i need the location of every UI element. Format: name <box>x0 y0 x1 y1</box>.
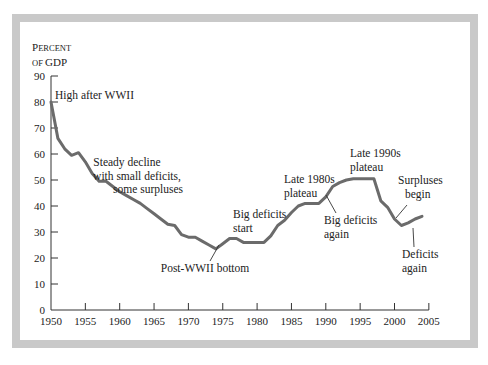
annotation-late-1980s-plateau: Late 1980s <box>284 173 335 185</box>
y-axis-label-line1: PERCENT <box>32 41 72 53</box>
x-tick-label: 1950 <box>40 315 63 327</box>
y-tick-label: 70 <box>34 122 46 134</box>
annotation-late-1990s-plateau: Late 1990s <box>350 147 401 159</box>
y-tick-label: 60 <box>34 148 46 160</box>
annotation-high-after-wwii: High after WWII <box>55 89 134 102</box>
x-tick-label: 2005 <box>418 315 441 327</box>
annotations: High after WWIISteady declinewith small … <box>55 89 443 275</box>
x-tick-label: 1955 <box>74 315 97 327</box>
x-tick-label: 2000 <box>384 315 407 327</box>
annotation-late-1990s-plateau: plateau <box>350 161 383 174</box>
annotation-late-1980s-plateau: plateau <box>284 187 317 200</box>
annotation-steady-decline: Steady decline <box>93 156 160 169</box>
annotation-big-deficits-start: start <box>233 222 254 234</box>
y-tick-label: 10 <box>34 278 46 290</box>
annotation-steady-decline: with small deficits, <box>93 170 181 183</box>
annotation-deficits-again: Deficits <box>402 248 439 260</box>
annotation-big-deficits-again: again <box>324 228 349 241</box>
x-tick-label: 1975 <box>212 315 235 327</box>
annotation-post-wwii-bottom: Post-WWII bottom <box>161 262 250 274</box>
y-tick-label: 90 <box>34 70 46 82</box>
y-tick-label: 80 <box>34 96 46 108</box>
x-tick-label: 1970 <box>177 315 200 327</box>
y-axis-label-line2: OF GDP <box>32 56 67 68</box>
y-tick-label: 30 <box>34 226 46 238</box>
annotation-steady-decline: some surpluses <box>113 183 183 196</box>
annotation-big-deficits-again: Big deficits <box>324 214 378 227</box>
annotation-big-deficits-start: Big deficits <box>233 208 287 221</box>
annotation-deficits-again: again <box>402 262 427 275</box>
annotation-surpluses-begin: begin <box>405 188 431 201</box>
x-tick-label: 1995 <box>349 315 372 327</box>
x-axis: 1950195519601965197019751980198519901995… <box>40 303 440 327</box>
y-tick-label: 40 <box>34 200 46 212</box>
x-tick-label: 1985 <box>280 315 303 327</box>
annotation-surpluses-begin: Surpluses <box>398 174 443 187</box>
x-tick-label: 1960 <box>109 315 132 327</box>
y-axis: 0102030405060708090 <box>34 70 58 316</box>
x-tick-label: 1990 <box>315 315 338 327</box>
y-tick-label: 20 <box>34 252 46 264</box>
x-tick-label: 1980 <box>246 315 269 327</box>
y-tick-label: 50 <box>34 174 46 186</box>
x-tick-label: 1965 <box>143 315 166 327</box>
line-chart: PERCENT OF GDP 0102030405060708090 19501… <box>0 0 488 365</box>
